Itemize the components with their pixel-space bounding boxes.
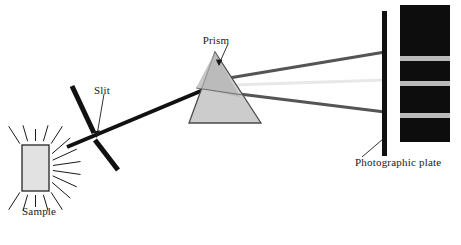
spectrum-dark-band [400,61,450,81]
sample-emission-ray [9,192,20,209]
spectrum-light-band [400,56,450,61]
slit-leader-line [97,94,104,135]
sample-emission-ray [53,149,77,160]
spectrum-light-band [400,81,450,86]
sample-emission-ray [53,176,77,187]
sample-label: Sample [22,205,56,217]
sample-emission-ray [43,125,48,141]
slit-bar-lower [95,140,118,170]
sample-group [9,125,81,210]
spectrum-dark-band [400,5,450,56]
photographic-plate-bar [382,11,387,156]
prism-group [189,52,261,123]
spectrum-light-band [400,113,450,118]
prism-label: Prism [203,34,230,46]
spectroscope-diagram: Sample Slit Prism Photographic plate [0,0,461,245]
sample-rectangle [22,145,49,191]
sample-emission-ray [53,162,81,166]
spectrum-dark-band [400,118,450,142]
slit-bar-upper [72,86,94,133]
sample-emission-ray [9,126,20,143]
sample-emission-ray [52,182,70,198]
sample-emission-ray [51,126,62,143]
diagram-canvas: Sample Slit Prism Photographic plate [0,0,461,245]
slit-label: Slit [94,84,110,96]
spectrum-strip [400,5,450,142]
spectrum-dark-band [400,86,450,113]
photographic-plate-label: Photographic plate [355,156,441,168]
plate-leader-line [362,139,383,157]
sample-emission-ray [53,171,81,175]
sample-emission-ray [23,125,28,141]
